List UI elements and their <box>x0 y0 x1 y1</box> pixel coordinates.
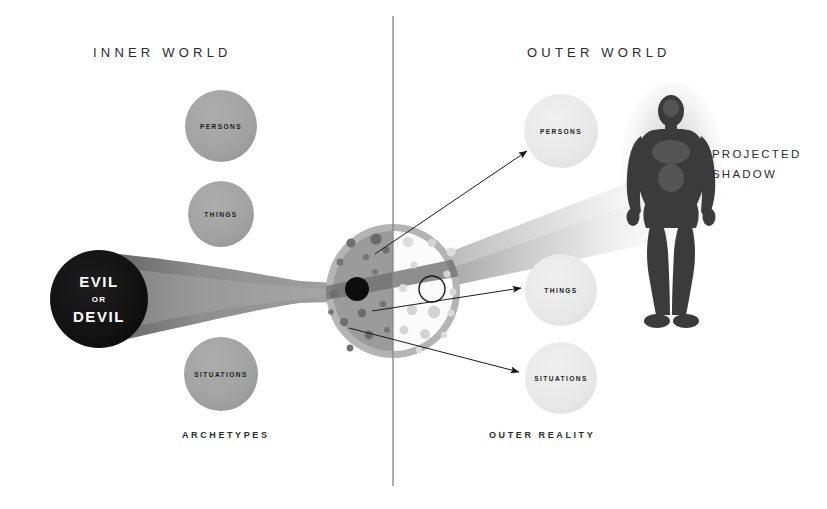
outer-bubble-persons[interactable]: PERSONS <box>524 94 598 168</box>
label-projected-shadow-line1: PROJECTED <box>712 148 801 160</box>
inner-bubble-situations[interactable]: SITUATIONS <box>184 337 258 411</box>
outer-bubble-things[interactable]: THINGS <box>525 254 597 326</box>
evil-or-devil-core[interactable]: EVIL OR DEVIL <box>50 250 148 348</box>
inner-bubble-things[interactable]: THINGS <box>188 181 254 247</box>
inner-bubble-persons-label: PERSONS <box>200 123 242 130</box>
label-projected-shadow-line2: SHADOW <box>712 168 777 180</box>
activated-complex-dot <box>345 277 369 301</box>
core-label-line3: DEVIL <box>73 308 125 325</box>
projection-diagram-canvas: PERSONS THINGS SITUATIONS EVIL OR DEVIL <box>0 0 827 509</box>
page-title-inner-world: INNER WORLD <box>93 45 232 60</box>
inner-bubble-persons[interactable]: PERSONS <box>185 90 257 162</box>
outer-bubble-things-label: THINGS <box>544 287 577 294</box>
label-outer-reality: OUTER REALITY <box>489 430 595 440</box>
outer-bubble-persons-label: PERSONS <box>540 128 582 135</box>
outer-bubble-situations-label: SITUATIONS <box>534 375 587 382</box>
page-title-outer-world: OUTER WORLD <box>527 45 671 60</box>
inner-bubble-situations-label: SITUATIONS <box>194 371 247 378</box>
core-label-line2: OR <box>92 295 106 304</box>
outer-bubble-situations[interactable]: SITUATIONS <box>525 342 597 414</box>
inner-bubble-things-label: THINGS <box>204 211 237 218</box>
label-archetypes: ARCHETYPES <box>182 430 270 440</box>
core-label-line1: EVIL <box>79 273 119 290</box>
